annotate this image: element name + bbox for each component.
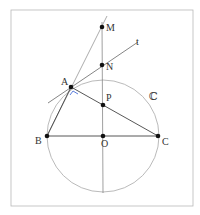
segment-ab [47, 87, 71, 136]
point-p [101, 103, 106, 108]
label-t: t [136, 36, 139, 47]
label-o: O [101, 138, 108, 149]
label-n: N [106, 61, 113, 72]
point-c [156, 134, 161, 139]
right-angle-icon [70, 91, 78, 95]
label-a: A [61, 76, 69, 87]
label-b: B [35, 135, 42, 146]
segment-ac [71, 87, 158, 136]
point-n [100, 63, 105, 68]
point-m [100, 25, 105, 30]
perpendicular-line [102, 22, 103, 193]
label-m: M [106, 22, 115, 33]
tangent-line-t [48, 42, 138, 103]
label-p: P [106, 92, 112, 103]
point-a [69, 85, 74, 90]
label-circle: ℂ [149, 90, 158, 102]
label-c: C [162, 136, 169, 147]
point-b [45, 134, 50, 139]
geometry-diagram: M N A P B O C t ℂ [0, 0, 200, 215]
